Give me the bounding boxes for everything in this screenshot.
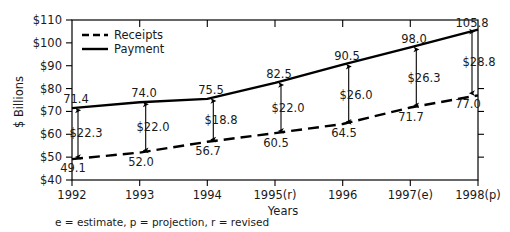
x-tick-label: 1992 xyxy=(40,188,104,202)
difference-value-label: $18.8 xyxy=(193,113,249,127)
payment-value-label: 98.0 xyxy=(386,32,442,46)
payment-value-label: 90.5 xyxy=(319,49,375,63)
y-tick-label: $60 xyxy=(18,127,62,141)
x-tick-label: 1998(p) xyxy=(446,188,510,202)
receipts-value-label: 60.5 xyxy=(248,136,304,150)
chart-figure: $110 $100 $90 $80 $70 $60 $50 $40 1992 1… xyxy=(0,0,510,232)
payment-value-label: 75.5 xyxy=(183,83,239,97)
x-tick-label: 1997(e) xyxy=(378,188,442,202)
receipts-value-label: 49.1 xyxy=(45,161,101,175)
payment-value-label: 105.8 xyxy=(444,16,500,30)
x-tick-label: 1994 xyxy=(175,188,239,202)
y-tick-label: $110 xyxy=(18,13,62,27)
y-axis-title: $ Billions xyxy=(12,76,26,128)
y-tick-label: $40 xyxy=(18,173,62,187)
receipts-value-label: 77.0 xyxy=(440,97,496,111)
difference-value-label: $22.3 xyxy=(58,126,114,140)
receipts-value-label: 64.5 xyxy=(316,126,372,140)
difference-value-label: $22.0 xyxy=(260,101,316,115)
x-tick-label: 1993 xyxy=(108,188,172,202)
payment-value-label: 71.4 xyxy=(48,92,104,106)
legend-item-receipts: Receipts xyxy=(114,28,163,42)
difference-value-label: $22.0 xyxy=(125,120,181,134)
x-tick-label: 1996 xyxy=(311,188,375,202)
y-tick-label: $100 xyxy=(18,36,62,50)
y-tick-label: $90 xyxy=(18,59,62,73)
chart-footnote: e = estimate, p = projection, r = revise… xyxy=(55,216,269,228)
payment-value-label: 74.0 xyxy=(116,86,172,100)
difference-value-label: $26.0 xyxy=(328,88,384,102)
receipts-value-label: 71.7 xyxy=(383,110,439,124)
difference-value-label: $28.8 xyxy=(451,55,507,69)
legend-swatches xyxy=(82,35,108,49)
payment-value-label: 82.5 xyxy=(251,67,307,81)
x-axis-ticks xyxy=(72,180,478,186)
difference-value-label: $26.3 xyxy=(396,71,452,85)
receipts-value-label: 52.0 xyxy=(113,155,169,169)
receipts-value-label: 56.7 xyxy=(180,144,236,158)
x-tick-label: 1995(r) xyxy=(243,188,307,202)
x-axis-top-ticks xyxy=(140,20,411,27)
legend-item-payment: Payment xyxy=(114,42,164,56)
